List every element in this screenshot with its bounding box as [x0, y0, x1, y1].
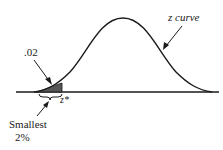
area-arrowhead-icon [45, 77, 52, 85]
region-label-line1: Smallest [9, 118, 47, 130]
region-label-line2: 2% [15, 131, 30, 143]
region-brace [39, 94, 62, 100]
z-curve-diagram: .02 z curve z* Smallest 2% [0, 0, 223, 150]
area-label: .02 [24, 46, 38, 58]
curve-arrow [166, 26, 182, 46]
normal-curve [34, 18, 212, 92]
critical-value-label: z* [59, 94, 69, 105]
curve-label: z curve [167, 11, 200, 23]
